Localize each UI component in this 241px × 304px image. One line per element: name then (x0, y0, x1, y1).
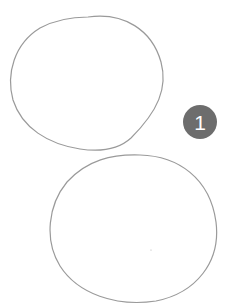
lower-circle-sketch (50, 155, 217, 303)
circle-sketches (0, 0, 241, 304)
sketch-canvas: 1 (0, 0, 241, 304)
pencil-speck (150, 249, 151, 250)
step-number-badge: 1 (183, 105, 217, 139)
upper-circle-sketch (11, 16, 164, 150)
